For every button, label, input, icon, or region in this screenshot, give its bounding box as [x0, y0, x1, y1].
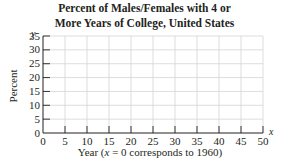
y-axis-label: Percent	[7, 70, 19, 103]
y-tick-label: 15	[29, 85, 41, 97]
y-tick-label: 25	[29, 57, 41, 69]
x-axis-label: Year (x = 0 corresponds to 1960)	[0, 146, 289, 158]
y-tick-label: 0	[35, 127, 41, 139]
y-tick-label: 5	[35, 113, 41, 125]
x-axis-variable: x	[268, 126, 274, 137]
y-tick-label: 10	[29, 99, 41, 111]
y-tick-label: 30	[29, 43, 41, 55]
y-axis-variable: y	[30, 28, 36, 39]
y-tick-label: 20	[29, 71, 41, 83]
gridlines	[43, 36, 263, 133]
chart-plot-area: 0510152025303540455005101520253035 y x P…	[0, 0, 289, 164]
